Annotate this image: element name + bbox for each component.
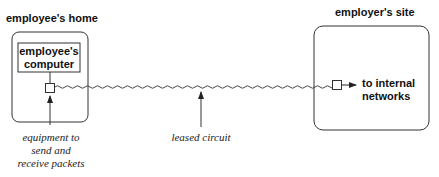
equipment-annotation: equipment to send and receive packets bbox=[10, 131, 92, 170]
leased-circuit-line bbox=[55, 85, 335, 88]
employer-equipment-square bbox=[333, 81, 342, 90]
computer-label: employee's computer bbox=[18, 45, 80, 71]
equipment-annotation-line3: receive packets bbox=[10, 157, 92, 170]
equipment-annotation-line2: send and bbox=[10, 144, 92, 157]
computer-label-line1: employee's bbox=[18, 45, 80, 58]
internal-networks-line2: networks bbox=[362, 90, 415, 103]
home-equipment-square bbox=[46, 84, 55, 93]
home-title: employee's home bbox=[6, 12, 98, 25]
internal-networks-line1: to internal bbox=[362, 77, 415, 90]
computer-label-line2: computer bbox=[18, 58, 80, 71]
circuit-annotation: leased circuit bbox=[160, 131, 242, 144]
employer-title: employer's site bbox=[335, 6, 415, 19]
equipment-annotation-line1: equipment to bbox=[10, 131, 92, 144]
internal-networks-label: to internal networks bbox=[362, 77, 415, 103]
